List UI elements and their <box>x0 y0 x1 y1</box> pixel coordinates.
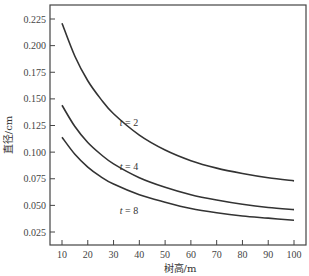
curve-t-4 <box>62 105 294 209</box>
x-tick-label: 100 <box>287 249 302 260</box>
y-tick-label: 0.200 <box>24 40 47 51</box>
x-tick-label: 80 <box>237 249 247 260</box>
x-tick-label: 10 <box>57 249 67 260</box>
curve-label-t-2: t = 2 <box>120 117 138 128</box>
y-tick-label: 0.225 <box>24 14 47 25</box>
y-tick-label: 0.050 <box>24 200 47 211</box>
x-tick-label: 50 <box>160 249 170 260</box>
x-axis-ticks: 102030405060708090100 <box>57 240 302 260</box>
curve-t-8 <box>62 137 294 220</box>
plot-border <box>50 5 306 245</box>
y-tick-label: 0.125 <box>24 120 47 131</box>
x-axis-label: 树高/m <box>164 262 197 274</box>
y-tick-label: 0.175 <box>24 67 47 78</box>
y-tick-label: 0.100 <box>24 147 47 158</box>
y-tick-label: 0.025 <box>24 227 47 238</box>
curve-label-t-4: t = 4 <box>120 161 138 172</box>
curves <box>62 23 294 220</box>
line-chart: 102030405060708090100 0.0250.0500.0750.1… <box>0 0 309 276</box>
x-tick-label: 40 <box>134 249 144 260</box>
x-tick-label: 60 <box>186 249 196 260</box>
y-tick-label: 0.150 <box>24 93 47 104</box>
plot-frame <box>50 5 306 245</box>
y-axis-label: 直径/cm <box>2 115 14 154</box>
y-tick-label: 0.075 <box>24 173 47 184</box>
x-tick-label: 90 <box>263 249 273 260</box>
x-tick-label: 70 <box>212 249 222 260</box>
curve-t-2 <box>62 23 294 181</box>
x-tick-label: 20 <box>83 249 93 260</box>
curve-label-t-8: t = 8 <box>120 205 138 216</box>
x-tick-label: 30 <box>109 249 119 260</box>
